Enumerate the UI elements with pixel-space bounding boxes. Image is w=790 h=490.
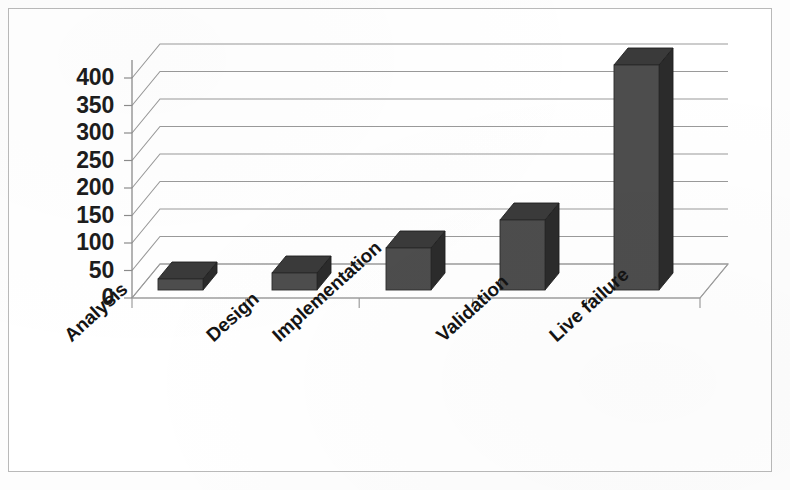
plot-area: 400 350 300 250 200 150 100 50 0 Analysi… — [0, 0, 790, 490]
chart-screenshot: 400 350 300 250 200 150 100 50 0 Analysi… — [0, 0, 790, 490]
x-category-implementation: Implementation — [268, 237, 386, 346]
x-category-live-failure: Live failure — [545, 264, 633, 347]
x-category-analysis: Analysis — [60, 278, 132, 346]
x-axis-labels: Analysis Design Implementation Validatio… — [0, 0, 790, 490]
x-category-design: Design — [202, 288, 263, 346]
x-category-validation: Validation — [432, 271, 513, 347]
